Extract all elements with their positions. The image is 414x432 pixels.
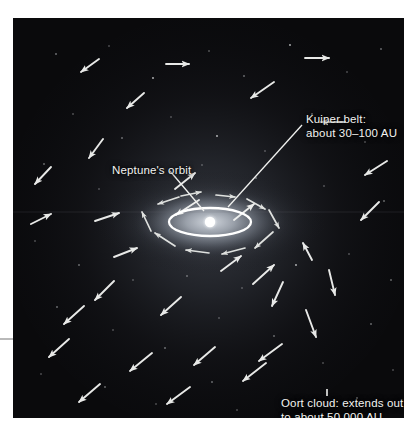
kuiper-belt-label: Kuiper belt:about 30–100 AU: [306, 112, 397, 140]
oort-cloud-label-line2: to about 50,000 AU: [281, 411, 382, 418]
figure-root: Kuiper belt:about 30–100 AU Neptune's or…: [0, 0, 414, 432]
sky-plate: Kuiper belt:about 30–100 AU Neptune's or…: [13, 18, 404, 418]
oort-cloud-label: Oort cloud: extends outto about 50,000 A…: [281, 396, 403, 418]
sun: [205, 217, 215, 227]
oort-cloud-label-line1: Oort cloud: extends out: [281, 397, 403, 409]
kuiper-belt-label-line1: Kuiper belt:: [306, 113, 366, 125]
neptune-orbit-label: Neptune's orbit: [112, 163, 191, 177]
kuiper-belt-label-line2: about 30–100 AU: [306, 127, 397, 139]
neptune-orbit-label-line1: Neptune's orbit: [112, 164, 191, 176]
sky-illustration: [13, 18, 404, 418]
